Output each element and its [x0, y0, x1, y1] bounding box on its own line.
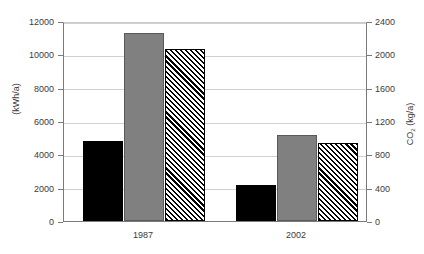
- y2-axis-tick-label: 1200: [375, 118, 395, 127]
- tick-left-8000: [58, 89, 63, 90]
- y2-axis-tick-label: 2000: [375, 51, 395, 60]
- plot-area: [63, 22, 367, 222]
- gridline-10000: [64, 56, 366, 57]
- tick-right-2000: [367, 55, 372, 56]
- bar-2002-gray: [277, 135, 317, 221]
- gridline-6000: [64, 123, 366, 124]
- tick-left-0: [58, 222, 63, 223]
- tick-right-1200: [367, 122, 372, 123]
- gridline-12000: [64, 23, 366, 24]
- y-axis-tick-label: 8000: [34, 85, 54, 94]
- y2-axis-tick-label: 400: [375, 185, 390, 194]
- x-axis-category-label-1987: 1987: [133, 231, 153, 240]
- tick-left-6000: [58, 122, 63, 123]
- y-axis-tick-label: 6000: [34, 118, 54, 127]
- y-axis-tick-label: 2000: [34, 185, 54, 194]
- y2-axis-title-suffix: (kg/a): [405, 103, 415, 129]
- bar-1987-gray: [124, 33, 164, 221]
- y2-axis-tick-label: 2400: [375, 18, 395, 27]
- bar-chart: 12000 10000 8000 6000 4000 2000 0 2400 2…: [0, 0, 424, 254]
- tick-left-10000: [58, 55, 63, 56]
- tick-right-1600: [367, 89, 372, 90]
- tick-right-2400: [367, 22, 372, 23]
- tick-left-2000: [58, 189, 63, 190]
- y-axis-tick-label: 0: [49, 218, 54, 227]
- y-axis-title: (kWh/a): [12, 83, 21, 115]
- y2-axis-title-subscript: 2: [410, 128, 416, 131]
- y2-axis-tick-label: 800: [375, 151, 390, 160]
- y-axis-tick-label: 4000: [34, 151, 54, 160]
- tick-right-0: [367, 222, 372, 223]
- bar-1987-black: [83, 141, 123, 221]
- x-axis-category-label-2002: 2002: [286, 231, 306, 240]
- bar-1987-hatched: [165, 49, 205, 221]
- bar-2002-black: [236, 185, 276, 221]
- tick-left-4000: [58, 155, 63, 156]
- y2-axis-title-prefix: CO: [405, 132, 415, 146]
- tick-right-400: [367, 189, 372, 190]
- tick-right-800: [367, 155, 372, 156]
- y-axis-tick-label: 10000: [29, 51, 54, 60]
- gridline-8000: [64, 89, 366, 90]
- tick-left-12000: [58, 22, 63, 23]
- y-axis-tick-label: 12000: [29, 18, 54, 27]
- y2-axis-title: CO2 (kg/a): [406, 103, 419, 145]
- y2-axis-tick-label: 1600: [375, 85, 395, 94]
- y2-axis-tick-label: 0: [375, 218, 380, 227]
- bar-2002-hatched: [318, 143, 358, 221]
